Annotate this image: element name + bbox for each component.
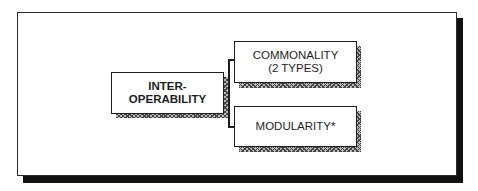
commonality-label-line-2: (2 TYPES) — [253, 62, 339, 75]
root-label-line-2: OPERABILITY — [129, 93, 206, 106]
root-label-line-1: INTER- — [129, 80, 206, 93]
child-node-modularity: MODULARITY* — [234, 106, 357, 147]
connector-bracket-vertical — [228, 59, 230, 128]
diagram-frame — [17, 12, 457, 176]
modularity-label: MODULARITY* — [256, 120, 336, 133]
root-node-interoperability: INTER- OPERABILITY — [111, 72, 224, 114]
child-node-commonality: COMMONALITY (2 TYPES) — [234, 41, 357, 83]
commonality-label-line-1: COMMONALITY — [253, 49, 339, 62]
